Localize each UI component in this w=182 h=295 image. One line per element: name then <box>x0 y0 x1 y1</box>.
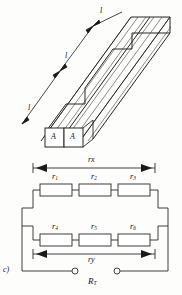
resistor-label-r2: r2 <box>91 172 97 181</box>
resistor-r3 <box>118 184 150 196</box>
total-resistance-label: RT <box>88 277 97 287</box>
resistor-label-r5: r5 <box>91 222 97 231</box>
resistor-label-r4: r4 <box>52 222 58 231</box>
resistor-label-r6: r6 <box>130 222 136 231</box>
ry-dimension-label: ry <box>88 256 95 264</box>
resistor-r2 <box>79 184 111 196</box>
area-label-2: A <box>70 133 75 141</box>
hatch-mask <box>0 0 182 152</box>
resistor-boxes-top <box>40 184 150 196</box>
resistor-r6 <box>118 234 150 246</box>
length-label-3: l <box>100 7 102 15</box>
terminal-leads <box>22 226 168 271</box>
resistor-r1 <box>40 184 72 196</box>
rx-dimension-label: rx <box>88 156 95 164</box>
figure-part-label: c) <box>3 266 9 274</box>
figure-canvas <box>0 0 182 295</box>
terminal-right <box>114 268 120 274</box>
resistor-r5 <box>79 234 111 246</box>
solid-bar-diagram <box>0 0 182 152</box>
length-label-1: l <box>28 104 30 112</box>
length-label-2: l <box>65 52 67 60</box>
area-label-1: A <box>51 133 56 141</box>
resistor-label-r1: r1 <box>52 172 58 181</box>
terminal-left <box>72 268 78 274</box>
resistor-label-r3: r3 <box>130 172 136 181</box>
resistor-r4 <box>40 234 72 246</box>
resistor-boxes-bottom <box>40 234 150 246</box>
